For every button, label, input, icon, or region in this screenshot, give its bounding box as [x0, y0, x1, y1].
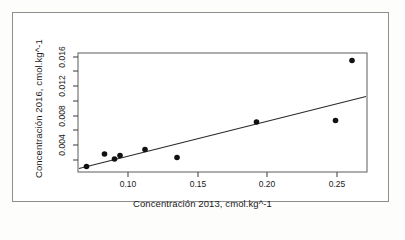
x-tick-label-4: 0.25	[320, 179, 354, 189]
y-tick-label-4: 0.016	[57, 42, 67, 72]
x-tick-label-1: 0.10	[111, 179, 145, 189]
figure-container: 0.10 0.15 0.20 0.25 0.016 0.012 0.008 0.…	[0, 0, 405, 240]
data-point	[333, 118, 339, 124]
data-point	[84, 164, 90, 170]
x-axis-title: Concentración 2013, cmol.kg^-1	[0, 198, 405, 209]
data-point	[254, 119, 260, 125]
y-axis-title: Concentración 2016, cmol.kg^-1	[33, 39, 44, 178]
x-tick-label-3: 0.20	[250, 179, 284, 189]
x-tick-label-2: 0.15	[181, 179, 215, 189]
y-tick-label-1: 0.004	[57, 130, 67, 160]
data-point	[142, 147, 148, 153]
data-point	[174, 155, 180, 161]
trend-line	[79, 97, 366, 169]
y-tick-label-2: 0.008	[57, 101, 67, 131]
data-point	[112, 156, 118, 162]
y-tick-label-3: 0.012	[57, 71, 67, 101]
data-points	[84, 58, 355, 170]
y-axis-ticks	[73, 57, 78, 160]
data-point	[349, 58, 355, 64]
x-axis-ticks	[128, 172, 337, 177]
data-point	[117, 153, 123, 159]
data-point	[102, 151, 108, 157]
